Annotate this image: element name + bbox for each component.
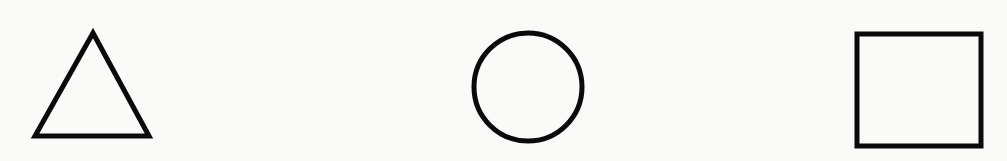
shapes-svg — [0, 0, 1007, 161]
circle-shape — [474, 33, 582, 141]
square-shape — [857, 34, 981, 146]
diagram-canvas — [0, 0, 1007, 161]
triangle-shape — [35, 33, 149, 136]
